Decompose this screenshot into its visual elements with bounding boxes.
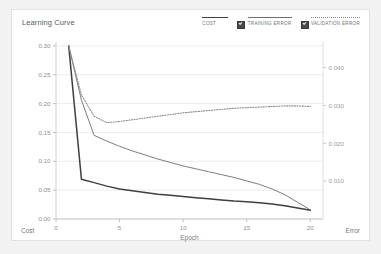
- left-axis-tick-label: 0.30: [38, 42, 51, 49]
- left-axis-corner-label: Cost: [21, 227, 34, 234]
- x-axis-tick-label: 5: [118, 224, 122, 231]
- series-line-validation-error: [69, 46, 311, 123]
- series-line-cost: [69, 46, 311, 210]
- right-axis-tick-label: 0.010: [329, 177, 345, 184]
- plot-area: 0.000.050.100.150.200.250.300.0100.0200.…: [12, 10, 371, 242]
- left-axis-tick-label: 0.25: [38, 71, 51, 78]
- chart-svg: 0.000.050.100.150.200.250.300.0100.0200.…: [12, 10, 371, 242]
- x-axis-tick-label: 20: [307, 224, 314, 231]
- x-axis-title: Epoch: [180, 234, 199, 242]
- right-axis-corner-label: Error: [346, 227, 360, 234]
- screenshot-root: Learning Curve COSTTRAINING ERRORVALIDAT…: [0, 0, 381, 254]
- x-axis-tick-label: 0: [54, 224, 58, 231]
- left-axis-tick-label: 0.20: [38, 100, 51, 107]
- left-axis-tick-label: 0.10: [38, 157, 51, 164]
- learning-curve-card: Learning Curve COSTTRAINING ERRORVALIDAT…: [11, 9, 370, 241]
- left-axis-tick-label: 0.15: [38, 129, 51, 136]
- x-axis-tick-label: 10: [180, 224, 187, 231]
- left-axis-tick-label: 0.05: [38, 186, 51, 193]
- right-axis-tick-label: 0.020: [329, 140, 345, 147]
- right-axis-tick-label: 0.040: [329, 64, 345, 71]
- right-axis-tick-label: 0.030: [329, 102, 345, 109]
- left-axis-tick-label: 0.00: [38, 215, 51, 222]
- x-axis-tick-label: 15: [243, 224, 250, 231]
